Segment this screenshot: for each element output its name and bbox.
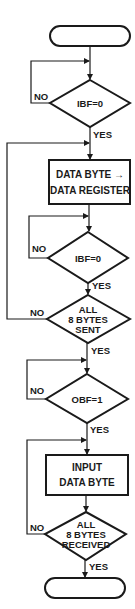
d4-yes-label: YES <box>90 424 109 435</box>
d1-label: IBF=0 <box>77 98 103 109</box>
d5-no-label: NO <box>30 522 44 533</box>
d2-yes-label: YES <box>92 280 111 291</box>
d3-no-label: NO <box>30 307 44 318</box>
start-terminal <box>50 26 130 46</box>
d2-no-label: NO <box>32 243 46 254</box>
p1-line1: DATA BYTE → <box>56 169 124 180</box>
end-terminal <box>45 578 125 598</box>
d3-line3: SENT <box>75 324 101 335</box>
d5-line3: RECEIVED <box>62 539 111 550</box>
d1-no-label: NO <box>34 91 48 102</box>
d4-no-label: NO <box>30 385 44 396</box>
process-input-data-byte <box>46 455 128 495</box>
p2-line1: INPUT <box>72 462 102 473</box>
flowchart: NO IBF=0 YES DATA BYTE → DATA REGISTER N… <box>0 0 135 609</box>
process-data-byte-to-register <box>49 160 130 204</box>
d2-label: IBF=0 <box>75 253 101 264</box>
p1-line2: DATA REGISTER <box>50 185 131 196</box>
d3-yes-label: YES <box>91 345 110 356</box>
d5-yes-label: YES <box>89 561 108 572</box>
d4-label: OBF=1 <box>72 394 104 405</box>
d1-yes-label: YES <box>93 129 112 140</box>
p2-line2: DATA BYTE <box>59 477 115 488</box>
